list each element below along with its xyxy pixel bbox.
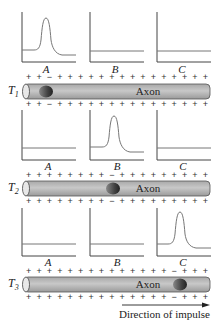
graph-b-t3 bbox=[90, 208, 144, 256]
bottom-charge-signs: + + − + + + + + + + + + + + + + + + bbox=[26, 99, 208, 109]
graph-a-t1 bbox=[22, 12, 76, 62]
bottom-charge-signs: + + + + + + + + + + + + + + − + + + bbox=[26, 292, 208, 302]
axon-t3: Axon bbox=[23, 277, 211, 292]
row-t3: A B C + + + + + + + + + + + + + + − + + … bbox=[8, 208, 211, 302]
arrow-head-icon bbox=[202, 303, 210, 308]
axon-t2: Axon bbox=[23, 181, 211, 196]
impulse-region bbox=[106, 183, 120, 195]
direction-label: Direction of impulse bbox=[119, 308, 210, 320]
axon-label: Axon bbox=[136, 182, 161, 194]
graph-a-t3 bbox=[22, 208, 76, 256]
row-t2: A B C + + + + + + + + − + + + + + + + + … bbox=[8, 110, 211, 206]
axon-label: Axon bbox=[136, 85, 161, 97]
nerve-impulse-diagram: A B C + + − + + + + + + + + + + + + + + … bbox=[0, 0, 222, 326]
impulse-region bbox=[173, 279, 187, 291]
graph-b-t1 bbox=[90, 12, 144, 62]
bottom-charge-signs: + + + + + + + + − + + + + + + + + + bbox=[26, 196, 208, 206]
graph-c-t1 bbox=[157, 12, 211, 62]
time-label-t2: T2 bbox=[8, 180, 19, 196]
graph-c-t3 bbox=[157, 208, 211, 256]
graph-a-t2 bbox=[22, 110, 76, 160]
impulse-region bbox=[39, 86, 53, 98]
axon-t1: Axon bbox=[23, 84, 211, 99]
time-label-t3: T3 bbox=[8, 276, 19, 292]
axon-label: Axon bbox=[136, 278, 161, 290]
graph-b-t2 bbox=[90, 110, 144, 160]
time-label-t1: T1 bbox=[8, 83, 19, 99]
row-t1: A B C + + − + + + + + + + + + + + + + + … bbox=[8, 12, 211, 109]
graph-c-t2 bbox=[157, 110, 211, 160]
direction-arrow bbox=[122, 303, 210, 308]
